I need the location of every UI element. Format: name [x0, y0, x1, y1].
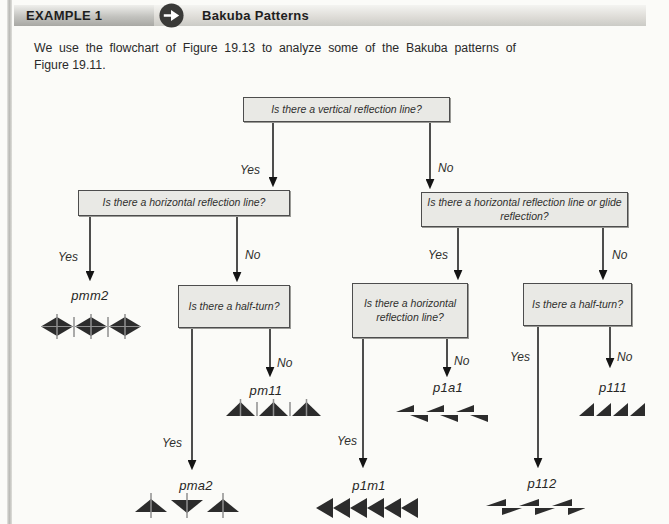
result-p111: p111: [599, 380, 627, 395]
edge-label-no-halfturn-right: No: [617, 350, 632, 364]
node-horizontal-or-glide: Is there a horizontal reflection line or…: [421, 192, 628, 227]
node-half-turn-left: Is there a half-turn?: [178, 285, 290, 328]
node-horizontal-mid: Is there a horizontal reflection line?: [352, 283, 468, 338]
edge-label-no-left: No: [245, 248, 260, 262]
result-p112: p112: [527, 476, 556, 491]
p111-pattern-icon: [579, 401, 645, 418]
flowchart-connectors: [0, 0, 669, 524]
p1m1-pattern-icon: [316, 495, 419, 521]
result-pm11: pm11: [250, 383, 283, 398]
pmm2-pattern-icon: [40, 313, 142, 340]
edge-label-yes-halfturn-left: Yes: [162, 436, 182, 450]
p112-pattern-icon: [486, 497, 585, 516]
node-horizontal-reflection: Is there a horizontal reflection line?: [78, 190, 290, 216]
node-half-turn-right: Is there a half-turn?: [523, 283, 632, 326]
edge-label-yes-halfturn-right: Yes: [510, 350, 530, 364]
edge-label-no-right: No: [612, 248, 627, 262]
result-pmm2: pmm2: [71, 288, 108, 303]
node-vertical-reflection: Is there a vertical reflection line?: [243, 97, 450, 122]
edge-label-no-root: No: [438, 161, 453, 175]
book-page: EXAMPLE 1 Bakuba Patterns We use the flo…: [0, 0, 669, 524]
result-p1a1: p1a1: [433, 380, 463, 395]
edge-label-yes-right: Yes: [428, 248, 448, 262]
result-p1m1: p1m1: [352, 478, 386, 493]
edge-label-no-mid: No: [454, 354, 469, 368]
p1a1-pattern-icon: [396, 402, 488, 426]
edge-label-yes-left: Yes: [58, 250, 78, 264]
edge-label-yes-mid: Yes: [337, 434, 357, 448]
edge-label-no-halfturn-left: No: [277, 356, 292, 370]
pma2-pattern-icon: [133, 491, 243, 521]
edge-label-yes-root: Yes: [240, 163, 260, 177]
pm11-pattern-icon: [225, 399, 322, 418]
